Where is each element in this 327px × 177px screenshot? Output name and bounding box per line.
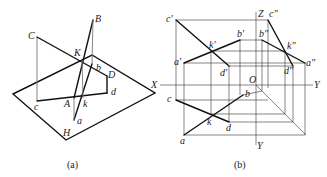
label-k-prime: k' — [209, 39, 216, 50]
label-a: a — [77, 115, 82, 126]
label-O: O — [249, 74, 256, 85]
label-d: d — [111, 86, 117, 97]
label-C: C — [28, 30, 35, 41]
label-b-prime: b' — [237, 28, 245, 39]
label-b: b — [245, 88, 250, 99]
label-D: D — [107, 69, 116, 80]
label-Z: Z — [258, 8, 264, 19]
miter-line — [256, 85, 306, 135]
label-c-double-prime: c" — [269, 8, 278, 19]
label-Y-bottom: Y — [257, 140, 264, 151]
front-c1-d1 — [176, 20, 229, 66]
edge-c-d — [37, 93, 107, 101]
label-c-prime: c' — [166, 13, 173, 24]
label-k: k — [207, 116, 212, 127]
caption-b: (b) — [234, 159, 246, 171]
label-Y-right: Y — [314, 79, 321, 90]
caption-a: (a) — [67, 159, 78, 171]
side-b2-a2 — [262, 40, 305, 63]
label-k-double-prime: k" — [287, 40, 296, 51]
label-d-double-prime: d" — [284, 65, 294, 76]
panel-b: c' Z c" k' b' b" k" a' a" d' d" X O Y b … — [150, 8, 321, 171]
label-k: k — [83, 98, 88, 109]
label-X: X — [150, 79, 158, 90]
projector-K-k — [82, 60, 83, 98]
projector-B-b — [92, 20, 93, 64]
label-b: b — [96, 62, 101, 73]
label-a-prime: a' — [174, 56, 182, 67]
label-b-double-prime: b" — [259, 28, 269, 39]
label-K: K — [73, 47, 82, 58]
label-a: a — [180, 135, 185, 146]
panel-a: B C K b D d c A k a H (a) — [13, 13, 155, 171]
label-d-prime: d' — [220, 67, 228, 78]
label-c: c — [167, 93, 172, 104]
label-c: c — [34, 101, 39, 112]
figure-canvas: B C K b D d c A k a H (a) — [0, 0, 327, 177]
top-a-b — [184, 95, 243, 135]
label-a-double-prime: a" — [306, 57, 316, 68]
label-d: d — [226, 122, 232, 133]
label-B: B — [95, 13, 101, 24]
label-H: H — [62, 127, 71, 138]
label-A: A — [63, 98, 71, 109]
